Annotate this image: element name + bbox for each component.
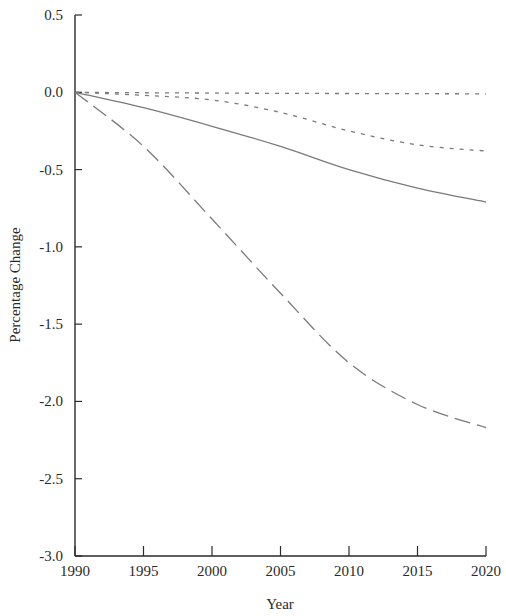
- y-tick-label: 0.0: [44, 84, 63, 100]
- y-tick-label: -3.0: [39, 548, 63, 564]
- x-tick-label: 2015: [403, 563, 433, 579]
- y-axis-title: Percentage Change: [7, 227, 23, 343]
- series-line-short-dash: [75, 92, 486, 151]
- line-chart: 0.50.0-0.5-1.0-1.5-2.0-2.5-3.01990199520…: [0, 0, 506, 616]
- x-tick-label: 2000: [197, 563, 227, 579]
- x-tick-label: 2010: [334, 563, 364, 579]
- series-group: [75, 92, 486, 427]
- series-line-dotted: [75, 92, 486, 94]
- x-tick-label: 1990: [60, 563, 90, 579]
- series-line-solid: [75, 92, 486, 202]
- y-tick-label: -1.0: [39, 239, 63, 255]
- y-tick-label: -2.0: [39, 393, 63, 409]
- x-tick-label: 1995: [129, 563, 159, 579]
- x-axis-title: Year: [266, 596, 294, 612]
- x-tick-label: 2020: [471, 563, 501, 579]
- series-line-long-dash: [75, 92, 486, 427]
- y-tick-label: -2.5: [39, 471, 63, 487]
- y-tick-label: -1.5: [39, 316, 63, 332]
- y-tick-label: 0.5: [44, 7, 63, 23]
- x-tick-label: 2005: [266, 563, 296, 579]
- y-tick-label: -0.5: [39, 162, 63, 178]
